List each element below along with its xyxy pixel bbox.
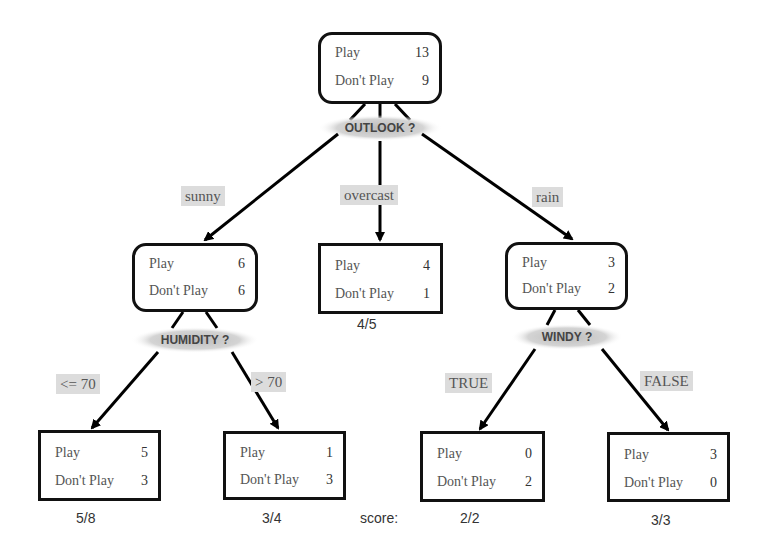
- node-sunny: Play6 Don't Play6: [132, 243, 258, 312]
- play-count: 13: [415, 45, 429, 61]
- edge-sunny: [205, 134, 338, 240]
- dont-play-label: Don't Play: [522, 281, 581, 297]
- dont-play-count: 1: [423, 286, 430, 302]
- decision-humidity: HUMIDITY ?: [140, 332, 250, 348]
- dont-play-label: Don't Play: [335, 73, 394, 89]
- node-humidity-low: Play5 Don't Play3: [38, 430, 161, 501]
- score-humidity-low: 5/8: [76, 510, 95, 526]
- score-windy-true: 2/2: [460, 510, 479, 526]
- edge-label-humidity-low: <= 70: [56, 374, 100, 394]
- decision-windy: WINDY ?: [517, 329, 617, 345]
- play-label: Play: [437, 446, 462, 462]
- dont-play-count: 2: [525, 474, 532, 490]
- play-label: Play: [335, 258, 360, 274]
- node-windy-true: Play0 Don't Play2: [420, 431, 545, 502]
- score-overcast: 4/5: [357, 316, 376, 332]
- play-label: Play: [335, 45, 360, 61]
- edge-label-overcast: overcast: [340, 185, 398, 205]
- edge-label-windy-false: FALSE: [640, 371, 693, 391]
- play-count: 3: [710, 447, 717, 463]
- score-humidity-high: 3/4: [262, 510, 281, 526]
- play-count: 1: [326, 445, 333, 461]
- play-count: 5: [141, 445, 148, 461]
- play-count: 6: [238, 256, 245, 272]
- node-root: Play13 Don't Play9: [318, 32, 442, 104]
- dont-play-count: 3: [141, 473, 148, 489]
- play-count: 3: [608, 255, 615, 271]
- edge-label-sunny: sunny: [181, 186, 225, 206]
- dont-play-label: Don't Play: [437, 474, 496, 490]
- edge-label-humidity-high: > 70: [251, 372, 286, 392]
- dont-play-label: Don't Play: [240, 472, 299, 488]
- dont-play-count: 0: [710, 475, 717, 491]
- play-label: Play: [149, 256, 174, 272]
- play-count: 4: [423, 258, 430, 274]
- dont-play-label: Don't Play: [149, 283, 208, 299]
- dont-play-label: Don't Play: [624, 475, 683, 491]
- score-label: score:: [360, 510, 398, 526]
- dont-play-count: 9: [422, 73, 429, 89]
- edge-humidity-low: [92, 352, 158, 428]
- dont-play-count: 6: [238, 283, 245, 299]
- edge-label-windy-true: TRUE: [445, 373, 492, 393]
- edge-label-rain: rain: [532, 187, 563, 207]
- dont-play-count: 2: [608, 281, 615, 297]
- decision-outlook: OUTLOOK ?: [330, 120, 430, 136]
- play-label: Play: [55, 445, 80, 461]
- dont-play-count: 3: [326, 472, 333, 488]
- node-overcast: Play4 Don't Play1: [318, 243, 443, 314]
- node-humidity-high: Play1 Don't Play3: [223, 431, 346, 500]
- play-label: Play: [240, 445, 265, 461]
- dont-play-label: Don't Play: [335, 286, 394, 302]
- play-label: Play: [522, 255, 547, 271]
- play-count: 0: [525, 446, 532, 462]
- score-windy-false: 3/3: [651, 512, 670, 528]
- play-label: Play: [624, 447, 649, 463]
- dont-play-label: Don't Play: [55, 473, 114, 489]
- node-rain: Play3 Don't Play2: [505, 242, 628, 310]
- node-windy-false: Play3 Don't Play0: [607, 432, 730, 502]
